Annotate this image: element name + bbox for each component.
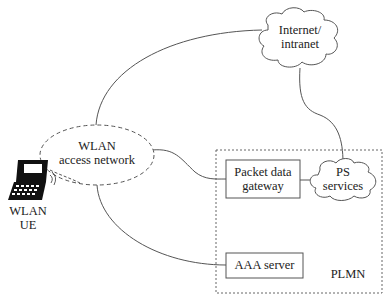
wlan-ue-label: WLAN UE [8, 204, 48, 232]
internet-label-line1: Internet/ [268, 23, 332, 37]
packet-data-gateway-label: Packet data gateway [226, 165, 300, 193]
internet-label: Internet/ intranet [268, 23, 332, 51]
edge-wlan-to-internet [96, 30, 262, 125]
wlan-ue-label-line2: UE [8, 218, 48, 232]
edge-internet-to-ps-services [300, 68, 343, 163]
gateway-label-line1: Packet data [226, 165, 300, 179]
internet-label-line2: intranet [268, 37, 332, 51]
wlan-an-label-line2: access network [57, 153, 137, 167]
edge-wlan-to-gateway [152, 150, 226, 179]
aaa-server-label: AAA server [226, 258, 303, 272]
ps-services-label-line2: services [312, 179, 374, 193]
ps-services-label: PS services [312, 165, 374, 193]
plmn-label: PLMN [328, 267, 368, 281]
gateway-label-line2: gateway [226, 179, 300, 193]
wlan-access-network-label: WLAN access network [57, 139, 137, 167]
wlan-ue-label-line1: WLAN [8, 204, 48, 218]
wlan-an-label-line1: WLAN [57, 139, 137, 153]
ps-services-label-line1: PS [312, 165, 374, 179]
edge-wlan-to-aaa [97, 185, 226, 265]
